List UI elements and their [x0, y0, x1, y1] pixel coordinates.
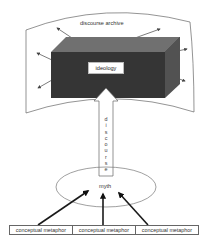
arrow-icon: [38, 80, 52, 88]
conceptual-metaphor-cell: conceptual metaphor: [136, 226, 198, 234]
discourse-archive-label: discourse archive: [80, 20, 124, 26]
arrow-icon: [119, 193, 148, 225]
discourse-letter: e: [105, 166, 108, 172]
metaphor-arrows: [38, 191, 148, 225]
conceptual-metaphor-cell: conceptual metaphor: [73, 226, 136, 234]
arrow-icon: [37, 53, 52, 60]
myth-label: myth: [99, 183, 111, 189]
conceptual-metaphor-cell: conceptual metaphor: [10, 226, 73, 234]
arrow-icon: [38, 191, 88, 225]
ideology-label: ideology: [96, 65, 117, 71]
discourse-label: d i s c o u r s e: [100, 116, 112, 173]
ideology-label-box: ideology: [88, 62, 124, 74]
arrow-icon: [135, 29, 160, 38]
conceptual-metaphor-row: conceptual metaphor conceptual metaphor …: [9, 225, 199, 235]
